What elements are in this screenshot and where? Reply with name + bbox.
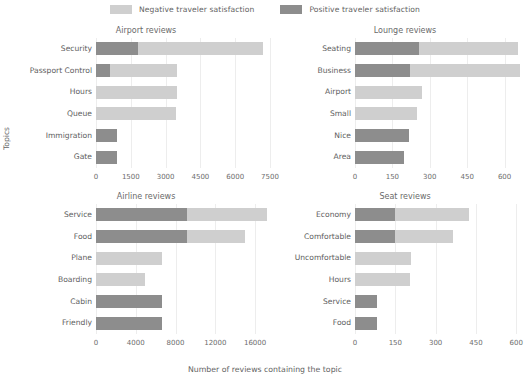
y-axis-label: Topics	[2, 127, 11, 150]
bar-segment-negative	[96, 86, 177, 99]
x-tick-label: 450	[469, 339, 482, 347]
bar-segment-positive	[96, 151, 117, 164]
bar-segment-negative	[419, 42, 519, 55]
x-tick-label: 600	[498, 173, 511, 181]
x-tick-label: 6000	[226, 173, 244, 181]
plot-area: EconomyComfortableUncomfortableHoursServ…	[283, 204, 527, 334]
x-tick-label: 7500	[261, 173, 279, 181]
bar-row[interactable]	[355, 317, 527, 330]
chart-page: Negative traveler satisfaction Positive …	[0, 0, 530, 384]
x-tick-label: 0	[353, 173, 357, 181]
bar-segment-negative	[96, 273, 145, 286]
bar-segment-positive	[96, 64, 110, 77]
x-tick-label: 16000	[244, 339, 266, 347]
bar-segment-positive	[355, 129, 409, 142]
bar-segment-negative	[355, 86, 422, 99]
bar-rows	[355, 204, 527, 334]
subplot-airport-reviews: Airport reviewsSecurityPassport ControlH…	[22, 26, 270, 186]
category-axis: SeatingBusinessAirportSmallNiceArea	[283, 38, 355, 168]
category-label: Boarding	[58, 276, 92, 284]
legend-item-positive: Positive traveler satisfaction	[280, 5, 420, 14]
bar-row[interactable]	[96, 151, 270, 164]
x-tick-label: 0	[353, 339, 357, 347]
subplot-title: Airline reviews	[22, 192, 270, 201]
x-tick-label: 150	[386, 173, 399, 181]
bar-row[interactable]	[96, 208, 270, 221]
bar-row[interactable]	[96, 230, 270, 243]
bar-segment-negative	[410, 64, 520, 77]
x-tick-label: 150	[389, 339, 402, 347]
x-tick-label: 300	[423, 173, 436, 181]
category-label: Hours	[329, 276, 351, 284]
subplot-title: Lounge reviews	[283, 26, 527, 35]
bar-segment-negative	[138, 42, 263, 55]
subplot-title: Seat reviews	[283, 192, 527, 201]
x-axis-label: Number of reviews containing the topic	[0, 365, 530, 374]
bars-region	[96, 38, 270, 168]
bar-segment-negative	[187, 208, 267, 221]
chart-legend: Negative traveler satisfaction Positive …	[0, 5, 530, 14]
bar-row[interactable]	[355, 295, 527, 308]
category-label: Hours	[70, 88, 92, 96]
bar-row[interactable]	[96, 252, 270, 265]
x-tick-label: 300	[429, 339, 442, 347]
bar-row[interactable]	[355, 208, 527, 221]
category-axis: ServiceFoodPlaneBoardingCabinFriendly	[22, 204, 96, 334]
category-label: Food	[74, 233, 92, 241]
category-label: Service	[64, 211, 92, 219]
bar-row[interactable]	[96, 42, 270, 55]
bars-region	[355, 204, 527, 334]
bar-segment-negative	[395, 208, 469, 221]
bar-row[interactable]	[355, 273, 527, 286]
bar-row[interactable]	[96, 107, 270, 120]
category-label: Small	[330, 110, 351, 118]
bar-row[interactable]	[355, 129, 527, 142]
bar-row[interactable]	[355, 151, 527, 164]
bar-row[interactable]	[96, 64, 270, 77]
bar-segment-positive	[96, 129, 117, 142]
bar-row[interactable]	[96, 129, 270, 142]
plot-area: SecurityPassport ControlHoursQueueImmigr…	[22, 38, 270, 168]
category-label: Economy	[316, 211, 351, 219]
category-axis: SecurityPassport ControlHoursQueueImmigr…	[22, 38, 96, 168]
legend-label-negative: Negative traveler satisfaction	[139, 5, 254, 14]
bar-row[interactable]	[96, 317, 270, 330]
x-axis-ticks: 015003000450060007500	[96, 170, 270, 186]
category-label: Comfortable	[304, 233, 351, 241]
category-label: Uncomfortable	[295, 254, 351, 262]
gridline	[270, 38, 271, 168]
bar-row[interactable]	[96, 273, 270, 286]
bar-segment-positive	[96, 295, 162, 308]
bar-row[interactable]	[355, 107, 527, 120]
category-label: Business	[318, 67, 352, 75]
bar-row[interactable]	[355, 252, 527, 265]
category-label: Passport Control	[30, 67, 92, 75]
bar-segment-negative	[355, 273, 410, 286]
bar-segment-negative	[355, 107, 417, 120]
category-label: Gate	[74, 153, 92, 161]
bar-row[interactable]	[355, 42, 527, 55]
x-tick-label: 0	[94, 339, 98, 347]
x-axis-ticks: 0400080001200016000	[96, 336, 270, 352]
subplot-title: Airport reviews	[22, 26, 270, 35]
legend-item-negative: Negative traveler satisfaction	[110, 5, 254, 14]
bars-region	[96, 204, 270, 334]
bar-row[interactable]	[355, 86, 527, 99]
bar-segment-positive	[96, 208, 187, 221]
x-tick-label: 0	[94, 173, 98, 181]
category-label: Airport	[325, 88, 351, 96]
bar-row[interactable]	[96, 295, 270, 308]
x-axis-ticks: 0150300450600	[355, 336, 527, 352]
legend-label-positive: Positive traveler satisfaction	[309, 5, 420, 14]
x-tick-label: 12000	[204, 339, 226, 347]
category-label: Nice	[334, 132, 351, 140]
bar-row[interactable]	[355, 230, 527, 243]
bar-row[interactable]	[96, 86, 270, 99]
bar-row[interactable]	[355, 64, 527, 77]
category-label: Service	[323, 298, 351, 306]
x-tick-label: 8000	[167, 339, 185, 347]
bar-segment-positive	[355, 64, 410, 77]
category-label: Food	[333, 319, 351, 327]
legend-swatch-positive	[280, 5, 302, 14]
category-label: Plane	[71, 254, 92, 262]
